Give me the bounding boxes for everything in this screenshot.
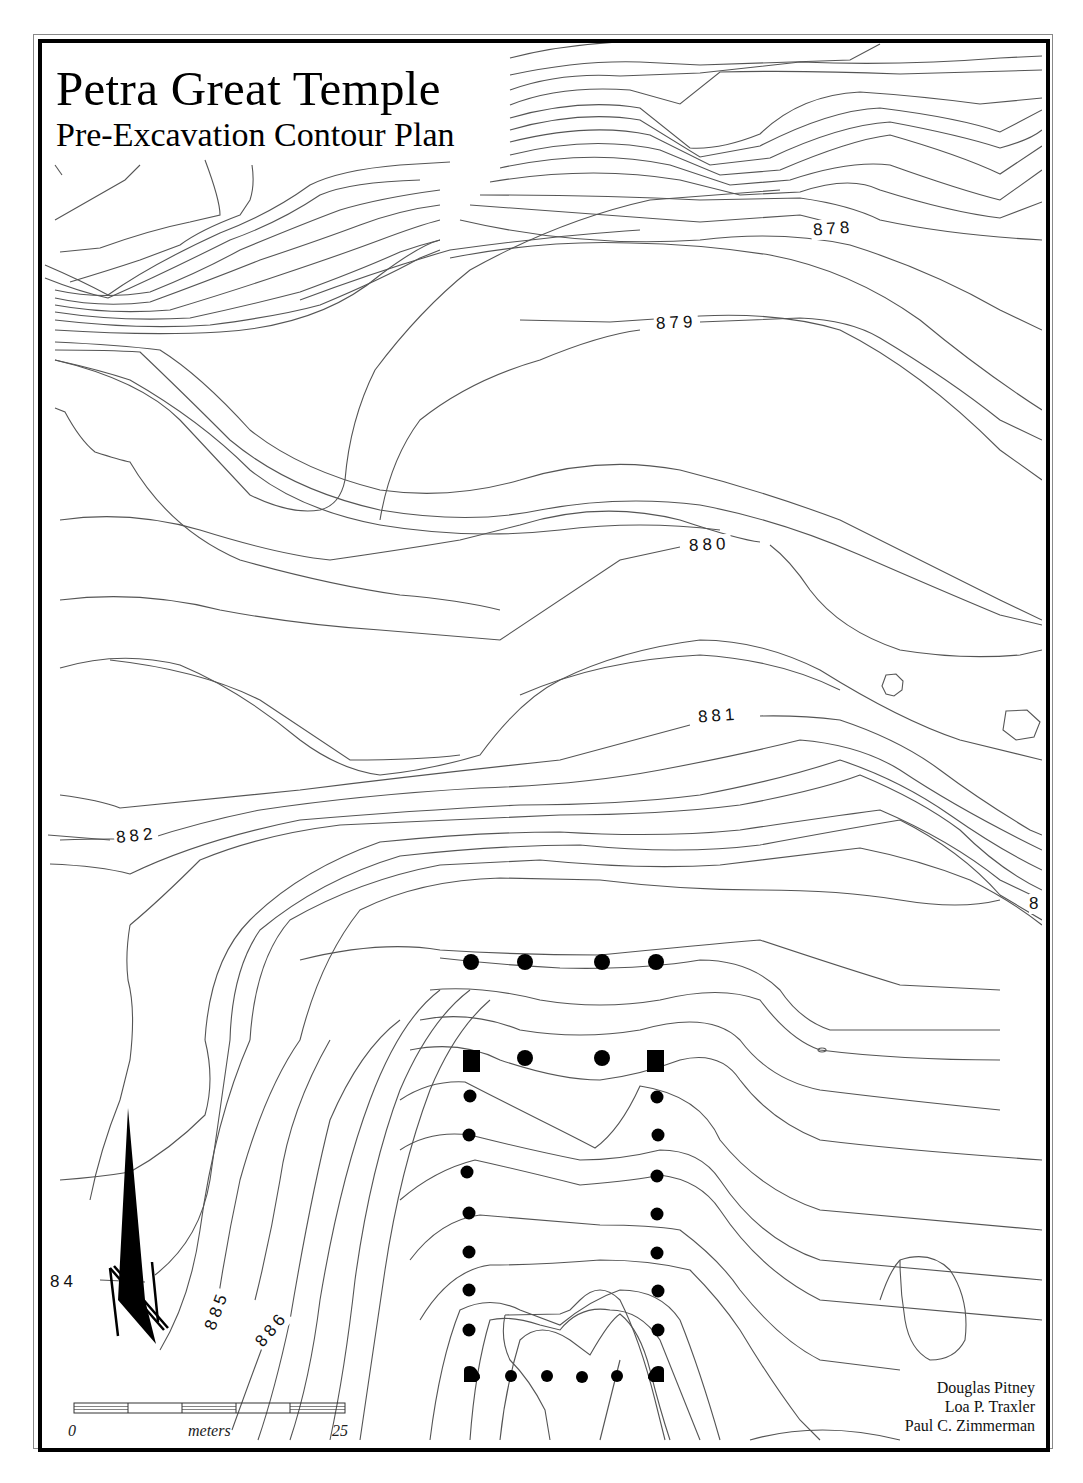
contour-label-881: 881: [695, 704, 741, 727]
title-block: Petra Great Temple Pre-Excavation Contou…: [42, 43, 462, 159]
credits: Douglas Pitney Loa P. Traxler Paul C. Zi…: [901, 1378, 1035, 1435]
credit-author: Douglas Pitney: [905, 1378, 1035, 1397]
map-subtitle: Pre-Excavation Contour Plan: [56, 115, 454, 155]
scale-end-label: 25: [332, 1422, 348, 1440]
credit-author: Loa P. Traxler: [905, 1397, 1035, 1416]
map-title: Petra Great Temple: [56, 63, 454, 115]
scale-unit-label: meters: [188, 1422, 231, 1440]
contour-label-883: 8: [1029, 894, 1042, 914]
contour-label-879: 879: [654, 312, 699, 334]
contour-label-878: 878: [810, 217, 856, 240]
contour-label-880: 880: [687, 534, 732, 556]
scale-start-label: 0: [68, 1422, 76, 1440]
credit-author: Paul C. Zimmerman: [905, 1416, 1035, 1435]
map-border: [38, 39, 1050, 1452]
contour-label-884: 84: [48, 1272, 79, 1292]
